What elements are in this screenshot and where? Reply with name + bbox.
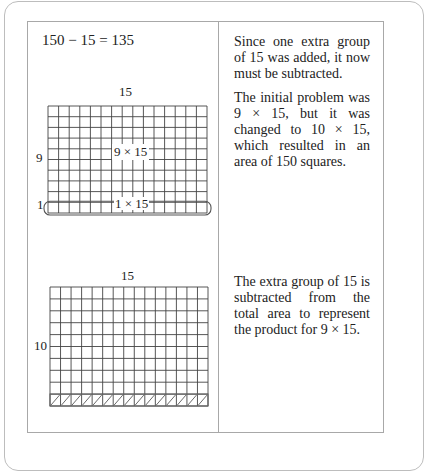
grid2-side-label-10: 10 xyxy=(34,338,47,354)
explanation-paragraph: The extra group of 15 is subtracted from… xyxy=(234,274,370,338)
explanation-paragraph: Since one extra group of 15 was added, i… xyxy=(234,34,370,82)
grid2-top-label: 15 xyxy=(121,268,134,284)
grid1-inner-label-9x15: 9 × 15 xyxy=(112,144,149,160)
explanation-paragraph: The initial problem was 9 × 15, but it w… xyxy=(234,90,370,170)
grid2-area-model xyxy=(50,287,208,406)
grid1-inner-label-1x15: 1 × 15 xyxy=(114,197,149,210)
section1-explanation: Since one extra group of 15 was added, i… xyxy=(234,34,370,178)
section2-explanation: The extra group of 15 is subtracted from… xyxy=(234,274,370,346)
